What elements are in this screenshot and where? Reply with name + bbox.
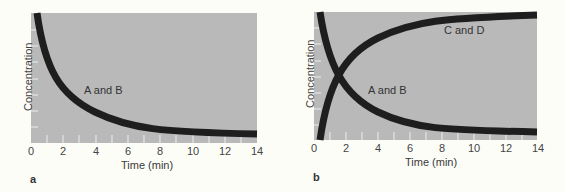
x-axis-label: Time (min) <box>405 156 457 168</box>
x-tick: 8 <box>439 142 445 154</box>
x-tick: 0 <box>28 145 34 157</box>
y-axis-label: Concentration <box>304 40 316 109</box>
x-tick: 4 <box>375 142 381 154</box>
x-tick: 12 <box>500 142 512 154</box>
x-tick: 10 <box>468 142 480 154</box>
x-tick: 6 <box>125 145 131 157</box>
panel-letter: a <box>30 173 36 185</box>
x-axis-label: Time (min) <box>121 159 173 171</box>
x-tick: 0 <box>311 142 317 154</box>
panel-b: Concentration C and D A and B 0 2 4 6 8 … <box>283 0 566 192</box>
x-tick: 6 <box>407 142 413 154</box>
y-axis-label: Concentration <box>22 43 34 112</box>
panel-letter: b <box>313 171 320 183</box>
x-tick: 4 <box>93 145 99 157</box>
x-tick: 8 <box>157 145 163 157</box>
x-tick: 2 <box>60 145 66 157</box>
curve-label-a-and-b: A and B <box>84 84 123 96</box>
x-tick: 10 <box>187 145 199 157</box>
x-tick: 14 <box>251 145 263 157</box>
panel-a: Concentration A and B 0 2 4 6 8 10 12 14… <box>0 0 283 192</box>
x-tick: 12 <box>219 145 231 157</box>
x-tick: 14 <box>532 142 544 154</box>
curve-label-c-and-d: C and D <box>444 24 484 36</box>
curve-label-a-and-b: A and B <box>368 84 407 96</box>
x-tick: 2 <box>343 142 349 154</box>
